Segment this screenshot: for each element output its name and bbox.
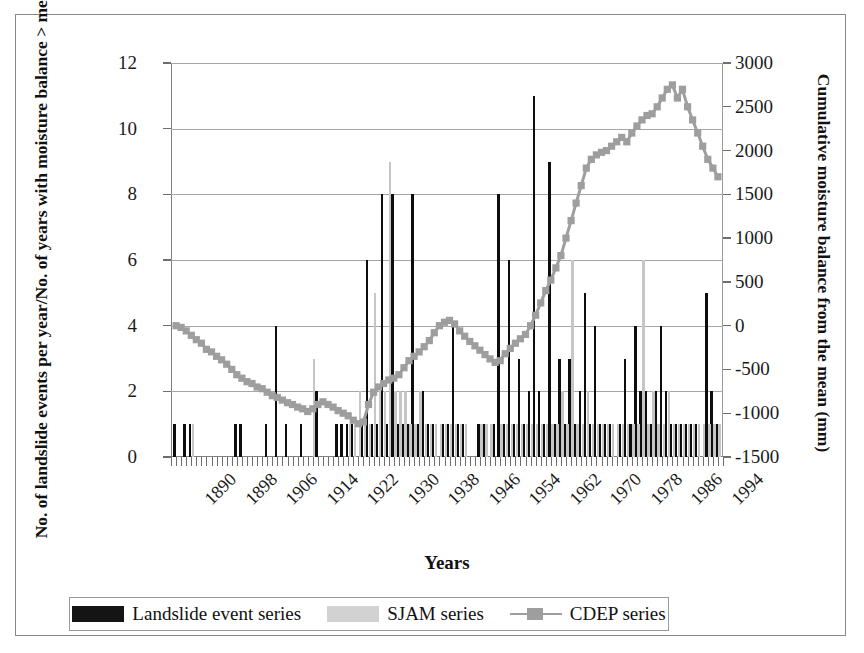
x-axis-minor-tick: [520, 457, 521, 466]
x-axis-minor-tick: [556, 457, 557, 466]
legend-item-cdep: CDEP series: [510, 603, 666, 625]
y-axis-right-tickmark: [723, 281, 731, 282]
y-axis-left-tickmark: [163, 259, 171, 260]
y-axis-right-tickmark: [723, 325, 731, 326]
figure-root: No. of landslide events per year/No. of …: [0, 0, 864, 653]
x-axis-minor-tick: [622, 457, 623, 466]
x-axis-minor-tick: [713, 457, 714, 466]
cdep-marker: [562, 235, 569, 242]
cdep-marker: [547, 277, 554, 284]
y-axis-left-tickmark: [163, 62, 171, 63]
x-axis-minor-tick: [607, 457, 608, 466]
cdep-marker: [395, 371, 402, 378]
x-axis-minor-tick: [485, 457, 486, 466]
x-axis-minor-tick: [363, 457, 364, 466]
cdep-marker: [694, 129, 701, 136]
x-axis-minor-tick: [308, 457, 309, 466]
x-axis-minor-tick: [206, 457, 207, 466]
x-axis-minor-ticks: [171, 457, 723, 467]
x-axis-minor-tick: [531, 457, 532, 466]
cdep-marker: [497, 357, 504, 364]
cdep-marker: [684, 103, 691, 110]
x-axis-minor-tick: [252, 457, 253, 466]
x-axis-minor-tick: [460, 457, 461, 466]
x-axis-minor-tick: [667, 457, 668, 466]
x-axis-minor-tick: [379, 457, 380, 466]
x-axis-minor-tick: [596, 457, 597, 466]
x-axis-minor-tick: [358, 457, 359, 466]
cdep-marker: [522, 331, 529, 338]
x-axis-minor-tick: [267, 457, 268, 466]
x-axis-minor-tick: [222, 457, 223, 466]
y-axis-left-title: No. of landslide events per year/No. of …: [18, 63, 64, 457]
cdep-marker: [679, 86, 686, 93]
cdep-marker: [360, 418, 367, 425]
x-axis-minor-tick: [688, 457, 689, 466]
x-axis-minor-tick: [662, 457, 663, 466]
y-axis-right-tick-label: 500: [735, 272, 815, 291]
x-axis-minor-tick: [414, 457, 415, 466]
y-axis-left-title-text: No. of landslide events per year/No. of …: [31, 0, 52, 538]
cdep-marker: [365, 401, 372, 408]
y-axis-right-tick-label: -500: [735, 359, 815, 378]
x-axis-minor-tick: [637, 457, 638, 466]
cdep-marker: [568, 217, 575, 224]
x-axis-minor-tick: [708, 457, 709, 466]
y-axis-left-tickmark: [163, 194, 171, 195]
cdep-marker: [426, 337, 433, 344]
cdep-marker: [623, 138, 630, 145]
x-axis-minor-tick: [723, 457, 724, 466]
x-axis-minor-tick: [465, 457, 466, 466]
x-axis-minor-tick: [551, 457, 552, 466]
cdep-polyline: [176, 85, 718, 424]
cdep-marker: [714, 173, 721, 180]
x-axis-minor-tick: [581, 457, 582, 466]
x-axis-minor-tick: [232, 457, 233, 466]
x-axis-minor-tick: [227, 457, 228, 466]
x-axis-minor-tick: [429, 457, 430, 466]
x-axis-minor-tick: [313, 457, 314, 466]
y-axis-right-title-text: Cumulative moisture balance from the mea…: [813, 74, 834, 452]
cdep-marker: [552, 264, 559, 271]
x-axis-minor-tick: [612, 457, 613, 466]
y-axis-right-tickmark: [723, 194, 731, 195]
cdep-marker: [578, 182, 585, 189]
x-axis-minor-tick: [495, 457, 496, 466]
x-axis-minor-tick: [201, 457, 202, 466]
y-axis-right-tickmark: [723, 106, 731, 107]
x-axis-minor-tick: [318, 457, 319, 466]
legend-item-sjam: SJAM series: [327, 603, 484, 625]
x-axis-minor-tick: [657, 457, 658, 466]
x-axis-minor-tick: [394, 457, 395, 466]
x-axis-minor-tick: [576, 457, 577, 466]
y-axis-right-tickmark: [723, 150, 731, 151]
y-axis-left-tick-label: 10: [77, 119, 137, 138]
y-axis-right-tick-label: -1500: [735, 447, 815, 466]
cdep-marker: [628, 129, 635, 136]
x-axis-minor-tick: [247, 457, 248, 466]
x-axis-minor-tick: [404, 457, 405, 466]
x-axis-minor-tick: [262, 457, 263, 466]
x-axis-minor-tick: [186, 457, 187, 466]
x-axis-minor-tick: [242, 457, 243, 466]
x-axis-minor-tick: [672, 457, 673, 466]
legend-label-sjam: SJAM series: [387, 603, 484, 625]
x-axis-minor-tick: [348, 457, 349, 466]
y-axis-left-tickmark: [163, 128, 171, 129]
x-axis-minor-tick: [561, 457, 562, 466]
y-axis-right-tick-label: 2000: [735, 141, 815, 160]
cdep-marker: [659, 94, 666, 101]
x-axis-minor-tick: [328, 457, 329, 466]
x-axis-minor-tick: [541, 457, 542, 466]
x-axis-minor-tick: [176, 457, 177, 466]
x-axis-minor-tick: [343, 457, 344, 466]
cdep-marker: [674, 94, 681, 101]
x-axis-minor-tick: [450, 457, 451, 466]
cdep-marker: [532, 312, 539, 319]
x-axis-minor-tick: [419, 457, 420, 466]
gray-line-square-marker-icon: [510, 606, 562, 622]
cdep-marker: [689, 116, 696, 123]
y-axis-left-tick-label: 8: [77, 184, 137, 203]
y-axis-left-tickmark: [163, 391, 171, 392]
x-axis-minor-tick: [647, 457, 648, 466]
